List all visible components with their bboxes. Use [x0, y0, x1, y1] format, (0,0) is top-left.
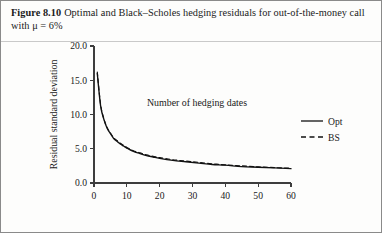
series-line-bs: [97, 72, 291, 168]
x-axis-tick-labels: 0102030405060: [92, 190, 296, 201]
chart-plot-area: 0.05.010.015.020.0 0102030405060 Number …: [1, 42, 382, 233]
y-axis-title: Residual standard deviation: [48, 60, 59, 170]
figure-container: Figure 8.10Optimal and Black–Scholes hed…: [0, 0, 382, 233]
x-tick-label: 30: [188, 190, 198, 201]
legend-item-opt: Opt: [301, 116, 343, 127]
y-axis-tick-labels: 0.05.010.015.020.0: [70, 42, 87, 188]
legend-label-bs: BS: [328, 132, 340, 143]
y-tick-label: 10.0: [70, 109, 87, 120]
x-tick-label: 50: [253, 190, 263, 201]
x-tick-label: 40: [221, 190, 231, 201]
figure-caption-label: Figure 8.10: [11, 7, 61, 18]
y-tick-label: 5.0: [75, 143, 87, 154]
series-line-opt: [97, 73, 291, 168]
x-axis-title: Number of hedging dates: [147, 97, 247, 108]
y-tick-label: 15.0: [70, 75, 87, 86]
x-tick-label: 10: [122, 190, 132, 201]
x-tick-label: 60: [286, 190, 296, 201]
chart-svg: 0.05.010.015.020.0 0102030405060 Number …: [1, 42, 382, 233]
x-tick-label: 0: [92, 190, 97, 201]
y-tick-label: 20.0: [70, 42, 87, 51]
y-axis-ticks: [90, 46, 94, 183]
figure-caption: Figure 8.10Optimal and Black–Scholes hed…: [11, 6, 367, 32]
x-tick-label: 20: [155, 190, 165, 201]
legend-item-bs: BS: [301, 132, 340, 143]
figure-caption-text: Optimal and Black–Scholes hedging residu…: [11, 7, 365, 31]
legend-label-opt: Opt: [328, 116, 343, 127]
y-tick-label: 0.0: [75, 177, 87, 188]
x-axis-ticks: [94, 183, 291, 187]
chart-legend: Opt BS: [301, 116, 343, 143]
